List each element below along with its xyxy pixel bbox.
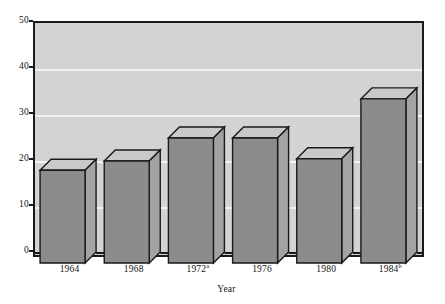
- bar-1968[interactable]: [104, 150, 160, 263]
- y-axis-tick-mark: [29, 250, 33, 252]
- x-axis-tick-label-1980: 1980: [316, 264, 336, 274]
- bar-1964[interactable]: [40, 159, 96, 263]
- bar-1980[interactable]: [297, 148, 353, 263]
- y-axis-tick-label: 0: [3, 246, 29, 256]
- y-axis-labels: 01020304050: [0, 21, 29, 253]
- x-axis-tick-label-1984: 1984b: [379, 264, 402, 274]
- bar-1976[interactable]: [233, 127, 289, 263]
- x-axis-tick-label-1972: 1972a: [186, 264, 209, 274]
- y-axis-tick-label: 50: [3, 16, 29, 26]
- y-axis-tick-mark: [29, 20, 33, 22]
- footnote-marker: b: [399, 262, 402, 269]
- y-axis-tick-label: 30: [3, 108, 29, 118]
- footnote-marker: a: [206, 262, 209, 269]
- x-axis-tick-label-1976: 1976: [252, 264, 272, 274]
- y-axis-tick-mark: [29, 158, 33, 160]
- x-axis-tick-label-1964: 1964: [60, 264, 80, 274]
- x-axis-title: Year: [33, 284, 420, 294]
- y-axis-tick-mark: [29, 204, 33, 206]
- y-axis-tick-label: 10: [3, 200, 29, 210]
- y-axis-tick-label: 20: [3, 154, 29, 164]
- x-axis-tick-label-1968: 1968: [124, 264, 144, 274]
- y-axis-tick-mark: [29, 66, 33, 68]
- y-axis-tick-label: 40: [3, 62, 29, 72]
- y-axis-tick-mark: [29, 112, 33, 114]
- bar-1972[interactable]: [168, 127, 224, 263]
- x-axis-labels: 196419681972a197619801984b: [33, 264, 420, 280]
- gridline: [35, 69, 422, 71]
- bar-chart: 01020304050 196419681972a197619801984b Y…: [0, 0, 445, 304]
- bar-1984[interactable]: [361, 88, 417, 263]
